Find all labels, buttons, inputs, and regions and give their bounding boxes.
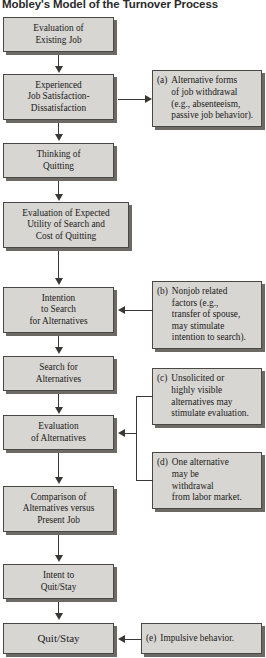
flow-node-quit-stay: Quit/Stay — [3, 623, 114, 654]
connector-note-a-arrowhead — [145, 95, 152, 103]
flow-node-search-for-alternatives: Search for Alternatives — [3, 356, 114, 391]
note-a-tag: (a) — [157, 75, 171, 87]
flow-node-experienced-job-satisfaction: Experienced Job Satisfaction- Dissatisfa… — [3, 74, 114, 120]
connector-3-vertical — [58, 181, 59, 194]
note-c: (c) Unsolicited or highly visible altern… — [152, 368, 262, 425]
node-line: Quit/Stay — [7, 582, 110, 593]
node-line: Comparison of — [7, 492, 110, 503]
connector-note-e-horizontal — [125, 639, 142, 640]
connector-2-arrowhead — [55, 134, 63, 141]
connector-9-arrowhead — [55, 613, 63, 620]
connector-cd-stem-horizontal — [125, 433, 137, 434]
connector-3-arrowhead — [55, 194, 63, 201]
node-line: Evaluation — [7, 421, 110, 432]
connector-6-vertical — [58, 394, 59, 407]
note-b: (b) Nonjob related factors (e.g., transf… — [152, 281, 262, 349]
connector-note-d-horizontal — [136, 480, 153, 481]
note-c-body: Unsolicited or highly visible alternativ… — [171, 373, 248, 419]
note-e-tag: (e) — [146, 633, 160, 645]
node-line: Dissatisfaction — [7, 103, 110, 114]
flow-node-evaluation-of-alternatives: Evaluation of Alternatives — [3, 415, 114, 450]
node-line: Alternatives versus — [7, 503, 110, 514]
connector-note-a-horizontal — [118, 99, 145, 100]
flow-node-evaluation-expected-utility: Evaluation of Expected Utility of Search… — [3, 202, 129, 248]
note-line: (e.g., absenteeism, — [171, 99, 253, 111]
connector-5-arrowhead — [55, 347, 63, 354]
node-line: Thinking of — [7, 149, 110, 160]
node-line: Utility of Search and — [7, 219, 125, 230]
node-line: Cost of Quitting — [7, 231, 125, 242]
node-line: Experienced — [7, 80, 110, 91]
connector-note-c-horizontal — [136, 396, 153, 397]
connector-6-arrowhead — [55, 407, 63, 414]
note-line: withdrawal — [172, 481, 242, 493]
connector-note-b-horizontal — [125, 310, 153, 311]
note-e: (e) Impulsive behavior. — [141, 623, 262, 654]
node-line: Existing Job — [7, 35, 110, 46]
connector-note-b-arrowhead — [118, 306, 125, 314]
note-b-body: Nonjob related factors (e.g., transfer o… — [172, 286, 246, 344]
note-line: intention to search). — [172, 332, 246, 344]
note-line: may stimulate — [172, 321, 246, 333]
note-d: (d) One alternative may be withdrawal fr… — [152, 452, 262, 509]
note-line: of job withdrawal — [171, 87, 253, 99]
note-line: may be — [172, 469, 242, 481]
note-d-tag: (d) — [157, 457, 172, 469]
node-line: for Alternatives — [7, 316, 110, 327]
note-c-tag: (c) — [157, 373, 171, 385]
flow-node-thinking-of-quitting: Thinking of Quitting — [3, 143, 114, 178]
connector-8-arrowhead — [55, 555, 63, 562]
note-line: from labor market. — [172, 492, 242, 504]
node-line: Evaluation of Expected — [7, 208, 125, 219]
connector-7-arrowhead — [55, 477, 63, 484]
node-line: Intention — [7, 293, 110, 304]
flow-node-evaluation-existing-job: Evaluation of Existing Job — [3, 17, 114, 52]
note-line: highly visible — [171, 385, 248, 397]
node-line: Quitting — [7, 161, 110, 172]
diagram-title: Mobley's Model of the Turnover Process — [2, 0, 264, 11]
flow-node-intent-to-quit-stay: Intent to Quit/Stay — [3, 564, 114, 599]
connector-note-e-arrowhead — [118, 635, 125, 643]
note-e-body: Impulsive behavior. — [160, 633, 234, 645]
note-line: factors (e.g., — [172, 298, 246, 310]
note-line: alternatives may — [171, 397, 248, 409]
connector-4-arrowhead — [55, 278, 63, 285]
connector-cd-bracket-vertical — [136, 396, 137, 481]
node-line: Intent to — [7, 570, 110, 581]
node-line: of Alternatives — [7, 433, 110, 444]
connector-cd-arrowhead — [118, 429, 125, 437]
connector-1-arrowhead — [55, 66, 63, 73]
node-line: to Search — [7, 304, 110, 315]
note-line: Nonjob related — [172, 286, 246, 298]
note-line: Impulsive behavior. — [160, 633, 234, 645]
note-line: transfer of spouse, — [172, 309, 246, 321]
note-a: (a) Alternative forms of job withdrawal … — [152, 70, 262, 127]
note-d-body: One alternative may be withdrawal from l… — [172, 457, 242, 503]
note-line: passive job behavior). — [171, 110, 253, 122]
node-line: Evaluation of — [7, 23, 110, 34]
node-line: Job Satisfaction- — [7, 91, 110, 102]
flow-node-comparison-of-alternatives: Comparison of Alternatives versus Presen… — [3, 486, 114, 532]
node-line: Quit/Stay — [7, 633, 110, 644]
note-line: stimulate evaluation. — [171, 408, 248, 420]
connector-7-vertical — [58, 453, 59, 477]
node-line: Present Job — [7, 515, 110, 526]
node-line: Search for — [7, 362, 110, 373]
connector-4-vertical — [58, 251, 59, 278]
flow-node-intention-to-search: Intention to Search for Alternatives — [3, 287, 114, 333]
note-line: Alternative forms — [171, 75, 253, 87]
note-line: One alternative — [172, 457, 242, 469]
note-a-body: Alternative forms of job withdrawal (e.g… — [171, 75, 253, 121]
connector-8-vertical — [58, 535, 59, 555]
node-line: Alternatives — [7, 374, 110, 385]
note-b-tag: (b) — [157, 286, 172, 298]
note-line: Unsolicited or — [171, 373, 248, 385]
turnover-process-diagram: Mobley's Model of the Turnover Process E… — [0, 0, 266, 658]
